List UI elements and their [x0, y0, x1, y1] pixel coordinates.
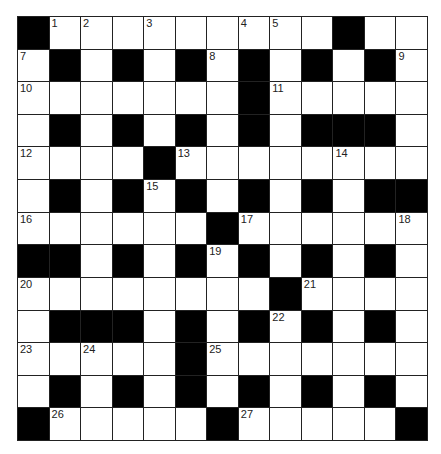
answer-cell[interactable]: 16 [18, 213, 49, 245]
answer-cell[interactable] [144, 311, 175, 343]
answer-cell[interactable]: 25 [207, 343, 238, 375]
answer-cell[interactable]: 7 [18, 50, 49, 82]
answer-cell[interactable] [207, 376, 238, 408]
answer-cell[interactable] [113, 82, 144, 114]
answer-cell[interactable] [365, 408, 396, 440]
answer-cell[interactable] [207, 82, 238, 114]
answer-cell[interactable] [333, 408, 364, 440]
answer-cell[interactable] [365, 343, 396, 375]
answer-cell[interactable] [81, 50, 112, 82]
answer-cell[interactable]: 21 [302, 278, 333, 310]
answer-cell[interactable] [365, 213, 396, 245]
answer-cell[interactable] [396, 376, 427, 408]
answer-cell[interactable] [81, 213, 112, 245]
answer-cell[interactable]: 27 [239, 408, 270, 440]
answer-cell[interactable] [302, 147, 333, 179]
answer-cell[interactable] [113, 278, 144, 310]
answer-cell[interactable] [81, 180, 112, 212]
answer-cell[interactable] [81, 245, 112, 277]
answer-cell[interactable] [207, 180, 238, 212]
answer-cell[interactable] [50, 82, 81, 114]
answer-cell[interactable] [176, 17, 207, 49]
answer-cell[interactable] [144, 82, 175, 114]
answer-cell[interactable]: 22 [270, 311, 301, 343]
answer-cell[interactable]: 24 [81, 343, 112, 375]
answer-cell[interactable] [144, 278, 175, 310]
answer-cell[interactable] [176, 213, 207, 245]
answer-cell[interactable]: 13 [176, 147, 207, 179]
answer-cell[interactable] [270, 343, 301, 375]
answer-cell[interactable] [81, 147, 112, 179]
answer-cell[interactable] [333, 343, 364, 375]
answer-cell[interactable] [270, 50, 301, 82]
answer-cell[interactable] [396, 245, 427, 277]
answer-cell[interactable] [113, 213, 144, 245]
answer-cell[interactable] [333, 376, 364, 408]
answer-cell[interactable] [239, 343, 270, 375]
answer-cell[interactable] [176, 82, 207, 114]
answer-cell[interactable] [270, 408, 301, 440]
answer-cell[interactable] [113, 17, 144, 49]
answer-cell[interactable]: 26 [50, 408, 81, 440]
answer-cell[interactable] [365, 82, 396, 114]
answer-cell[interactable] [207, 115, 238, 147]
answer-cell[interactable] [144, 376, 175, 408]
answer-cell[interactable] [270, 147, 301, 179]
answer-cell[interactable] [81, 376, 112, 408]
answer-cell[interactable] [302, 82, 333, 114]
answer-cell[interactable]: 1 [50, 17, 81, 49]
answer-cell[interactable] [333, 82, 364, 114]
answer-cell[interactable] [144, 245, 175, 277]
answer-cell[interactable] [207, 17, 238, 49]
answer-cell[interactable]: 18 [396, 213, 427, 245]
answer-cell[interactable] [333, 50, 364, 82]
answer-cell[interactable]: 3 [144, 17, 175, 49]
answer-cell[interactable] [207, 147, 238, 179]
answer-cell[interactable] [113, 408, 144, 440]
answer-cell[interactable]: 10 [18, 82, 49, 114]
answer-cell[interactable] [302, 343, 333, 375]
answer-cell[interactable] [270, 245, 301, 277]
answer-cell[interactable]: 12 [18, 147, 49, 179]
answer-cell[interactable]: 23 [18, 343, 49, 375]
answer-cell[interactable] [113, 147, 144, 179]
answer-cell[interactable] [396, 82, 427, 114]
answer-cell[interactable] [50, 278, 81, 310]
answer-cell[interactable] [396, 115, 427, 147]
answer-cell[interactable]: 17 [239, 213, 270, 245]
answer-cell[interactable]: 5 [270, 17, 301, 49]
answer-cell[interactable] [18, 311, 49, 343]
answer-cell[interactable] [239, 147, 270, 179]
answer-cell[interactable] [302, 213, 333, 245]
answer-cell[interactable] [144, 50, 175, 82]
answer-cell[interactable] [207, 311, 238, 343]
answer-cell[interactable] [81, 408, 112, 440]
answer-cell[interactable] [239, 278, 270, 310]
answer-cell[interactable] [302, 408, 333, 440]
answer-cell[interactable]: 19 [207, 245, 238, 277]
answer-cell[interactable] [396, 278, 427, 310]
answer-cell[interactable] [365, 278, 396, 310]
answer-cell[interactable]: 11 [270, 82, 301, 114]
answer-cell[interactable] [302, 17, 333, 49]
answer-cell[interactable] [81, 115, 112, 147]
answer-cell[interactable] [270, 115, 301, 147]
answer-cell[interactable] [50, 213, 81, 245]
answer-cell[interactable] [113, 343, 144, 375]
answer-cell[interactable]: 9 [396, 50, 427, 82]
answer-cell[interactable] [333, 245, 364, 277]
answer-cell[interactable] [50, 343, 81, 375]
answer-cell[interactable] [270, 180, 301, 212]
answer-cell[interactable] [333, 278, 364, 310]
answer-cell[interactable] [270, 376, 301, 408]
answer-cell[interactable] [50, 147, 81, 179]
answer-cell[interactable] [176, 278, 207, 310]
answer-cell[interactable] [333, 213, 364, 245]
answer-cell[interactable] [333, 311, 364, 343]
answer-cell[interactable] [396, 147, 427, 179]
answer-cell[interactable] [207, 278, 238, 310]
answer-cell[interactable] [365, 17, 396, 49]
answer-cell[interactable] [333, 180, 364, 212]
answer-cell[interactable] [396, 343, 427, 375]
answer-cell[interactable] [365, 147, 396, 179]
